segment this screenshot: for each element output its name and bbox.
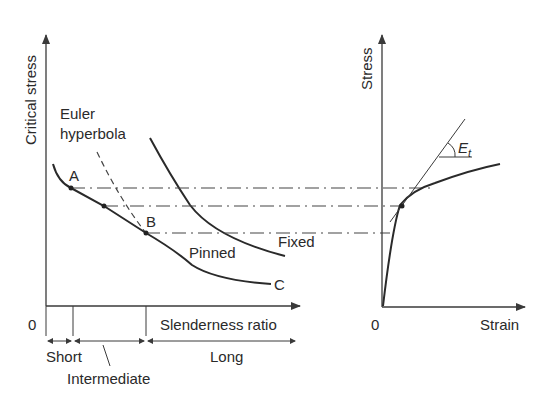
buckling-diagram: Critical stress 0 Slenderness ratio Shor… (0, 0, 555, 397)
pinned-label: Pinned (189, 244, 236, 261)
tangent-modulus-label: Et (458, 139, 472, 159)
stress-strain-curve (383, 164, 500, 306)
right-x-axis-label: Strain (480, 316, 519, 333)
right-chart: Stress 0 Strain Et (358, 35, 525, 333)
fixed-label: Fixed (278, 233, 315, 250)
left-x-axis-label: Slenderness ratio (160, 316, 277, 333)
euler-hyperbola-curve (97, 152, 146, 233)
long-label: Long (210, 348, 243, 365)
intermediate-leader-line (103, 345, 110, 366)
right-origin-label: 0 (371, 316, 379, 333)
point-mid-marker (102, 204, 107, 209)
fixed-curve (150, 138, 285, 256)
point-c-label: C (274, 276, 285, 293)
euler-label-line2: hyperbola (60, 125, 127, 142)
short-label: Short (46, 348, 83, 365)
left-y-axis-label: Critical stress (22, 55, 39, 145)
point-a-marker (69, 186, 74, 191)
point-a-label: A (69, 167, 79, 184)
intermediate-label: Intermediate (67, 370, 150, 387)
euler-label-line1: Euler (60, 105, 95, 122)
point-b-label: B (146, 213, 156, 230)
pinned-curve (53, 164, 271, 284)
tangent-point-marker (400, 204, 405, 209)
left-origin-label: 0 (28, 316, 36, 333)
point-b-marker (144, 231, 149, 236)
right-y-axis-label: Stress (358, 47, 375, 90)
angle-arc (448, 143, 455, 157)
